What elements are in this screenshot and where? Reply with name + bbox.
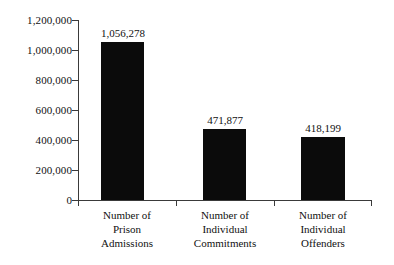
bar-chart-figure: 1,200,000 1,000,000 800,000 600,000 400,…	[0, 0, 394, 265]
y-tick-label-1000000: 1,000,000	[27, 45, 72, 56]
bar-prison-admissions	[101, 42, 144, 200]
category-label-line-2: Prison	[78, 222, 176, 236]
y-tick-label-1200000: 1,200,000	[27, 15, 72, 26]
y-axis-tick-labels: 1,200,000 1,000,000 800,000 600,000 400,…	[0, 0, 72, 265]
category-label-individual-offenders: Number of Individual Offenders	[274, 208, 372, 250]
category-label-line-2: Individual	[274, 222, 372, 236]
category-label-line-1: Number of	[176, 208, 274, 222]
bar-individual-commitments	[203, 129, 246, 200]
category-label-prison-admissions: Number of Prison Admissions	[78, 208, 176, 250]
category-label-line-2: Individual	[176, 222, 274, 236]
y-tick-label-600000: 600,000	[36, 105, 72, 116]
bar-value-individual-offenders: 418,199	[286, 122, 360, 134]
y-axis-line	[78, 20, 79, 201]
y-tick-label-400000: 400,000	[36, 135, 72, 146]
category-label-line-3: Admissions	[78, 236, 176, 250]
category-label-individual-commitments: Number of Individual Commitments	[176, 208, 274, 250]
category-label-line-3: Commitments	[176, 236, 274, 250]
bar-value-individual-commitments: 471,877	[188, 114, 262, 126]
x-tick-mark-end	[371, 200, 372, 206]
x-tick-mark-start	[78, 200, 79, 206]
bar-value-prison-admissions: 1,056,278	[82, 27, 164, 39]
bar-individual-offenders	[301, 137, 345, 200]
category-label-line-3: Offenders	[274, 236, 372, 250]
x-axis-line	[78, 200, 372, 201]
category-label-line-1: Number of	[78, 208, 176, 222]
y-tick-label-800000: 800,000	[36, 75, 72, 86]
y-tick-label-200000: 200,000	[36, 165, 72, 176]
category-label-line-1: Number of	[274, 208, 372, 222]
x-tick-mark-sep-1	[176, 200, 177, 206]
x-tick-mark-sep-2	[274, 200, 275, 206]
